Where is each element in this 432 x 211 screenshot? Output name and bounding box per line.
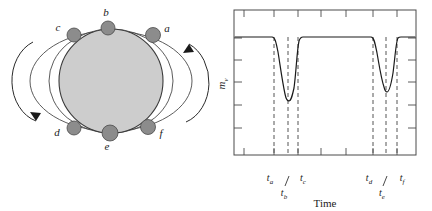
right-axis-ticks [408, 38, 416, 128]
tick-label-ta: ta [267, 172, 274, 186]
marker-lines-dip-2 [373, 37, 397, 155]
starspot-f [141, 120, 156, 135]
tick-label-td: td [366, 172, 373, 186]
tick-label-te: te [379, 187, 385, 201]
svg-text:tc: tc [300, 172, 307, 186]
svg-text:ta: ta [267, 172, 274, 186]
left-axis-ticks [234, 38, 242, 128]
star-diagram-panel: a b c d e f [0, 0, 216, 211]
starspot-e [102, 125, 118, 141]
starspot-label-a: a [164, 22, 170, 34]
svg-text:mv: mv [216, 78, 230, 90]
starspot-label-b: b [103, 6, 109, 18]
starspot-label-d: d [54, 126, 60, 138]
svg-text:te: te [379, 187, 385, 201]
top-axis-ticks [244, 10, 397, 17]
starspot-label-e: e [105, 140, 110, 152]
leader-line-te [383, 176, 387, 186]
starspot-d [67, 121, 81, 135]
svg-text:td: td [366, 172, 373, 186]
light-curve-panel: ta tb tc td te tf mv Time [216, 0, 432, 211]
tick-label-tf: tf [400, 172, 406, 186]
plot-frame [234, 10, 416, 155]
tick-label-tb: tb [281, 187, 288, 201]
left-rotation-arrow [12, 42, 41, 121]
svg-text:tb: tb [281, 187, 288, 201]
bottom-axis-ticks [244, 148, 397, 155]
starspot-label-f: f [159, 127, 164, 139]
star-body [59, 29, 163, 133]
starspot-a [146, 28, 161, 43]
tick-label-tc: tc [300, 172, 307, 186]
starspot-c [67, 28, 81, 42]
y-axis-label: mv [216, 78, 230, 90]
x-axis-title: Time [314, 197, 337, 209]
svg-text:tf: tf [400, 172, 406, 186]
starspot-b [101, 21, 115, 35]
star-diagram-svg: a b c d e f [0, 0, 216, 211]
right-rotation-arrow [183, 44, 209, 122]
figure-starspot-light-curve: a b c d e f [0, 0, 432, 211]
leader-line-tb [285, 176, 289, 186]
starspot-label-c: c [56, 21, 61, 33]
light-curve-svg: ta tb tc td te tf mv Time [216, 0, 432, 211]
light-curve-path [235, 37, 415, 101]
